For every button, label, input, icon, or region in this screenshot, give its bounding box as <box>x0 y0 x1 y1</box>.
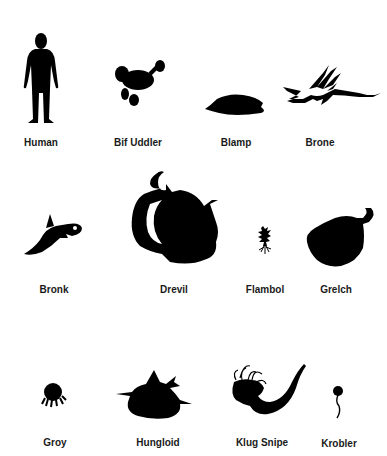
bronk-silhouette-icon <box>24 214 84 256</box>
creature-label: Human <box>24 137 58 148</box>
creature-label: Blamp <box>221 137 252 148</box>
grelch-silhouette-icon <box>305 206 377 268</box>
flambol-silhouette-icon <box>255 226 275 256</box>
brone-silhouette-icon <box>283 65 383 111</box>
human-silhouette-icon <box>22 33 62 125</box>
creature-label: Drevil <box>160 284 188 295</box>
creature-label: Krobler <box>321 438 357 449</box>
hungloid-silhouette-icon <box>116 362 192 420</box>
krobler-silhouette-icon <box>332 386 344 420</box>
bif-uddler-silhouette-icon <box>114 60 166 110</box>
blamp-silhouette-icon <box>205 93 267 115</box>
creature-label: Bronk <box>40 284 69 295</box>
groy-silhouette-icon <box>41 382 67 408</box>
klug-snipe-silhouette-icon <box>228 362 308 418</box>
creature-label: Bif Uddler <box>114 137 162 148</box>
creature-label: Flambol <box>246 284 284 295</box>
creature-label: Hungloid <box>136 437 179 448</box>
creature-label: Brone <box>306 137 335 148</box>
creature-label: Grelch <box>320 284 352 295</box>
creature-label: Groy <box>43 437 66 448</box>
creature-label: Klug Snipe <box>236 437 288 448</box>
drevil-silhouette-icon <box>130 170 222 266</box>
